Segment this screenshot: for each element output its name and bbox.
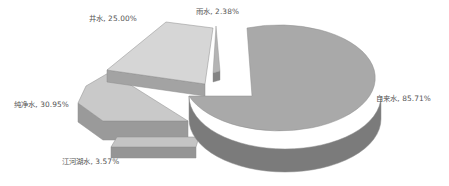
pie-slice-river-lake-water-side <box>111 147 196 158</box>
pie-label-rain-water: 雨水, 2.38% <box>196 8 239 15</box>
pie-slice-river-lake-water <box>111 137 199 158</box>
pie-label-tap-water: 自来水, 85.71% <box>376 95 431 102</box>
pie-label-river-lake-water: 江河湖水, 3.57% <box>62 158 119 165</box>
pie-label-well-water: 井水, 25.00% <box>89 15 137 22</box>
pie-label-purified-water: 纯净水, 30.95% <box>14 101 69 108</box>
pie-slice-rain-water-top <box>213 26 220 73</box>
pie-slice-rain-water <box>213 26 220 82</box>
pie-slice-river-lake-water-top <box>111 137 199 147</box>
